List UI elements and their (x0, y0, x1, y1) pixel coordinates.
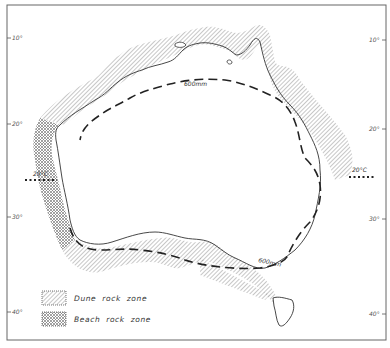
isohyet-600mm (70, 79, 321, 268)
dune-rock-zone (40, 25, 352, 305)
svg-text:20°: 20° (369, 125, 380, 132)
svg-text:10°: 10° (12, 34, 23, 41)
isotherm-label-west: 20°C (33, 170, 49, 177)
legend-label-beach: Beach rock zone (74, 315, 151, 324)
latitude-scale-left: 10° 20° 30° 40° (7, 34, 23, 315)
legend-swatch-dune (42, 291, 66, 305)
melville-island (175, 42, 186, 47)
legend: Dune rock zone Beach rock zone (42, 291, 151, 326)
map-frame (7, 5, 386, 340)
beach-rock-zone (33, 118, 75, 250)
tasmania (273, 297, 294, 326)
isohyet-label-north: 600mm (184, 80, 207, 87)
groote-island (227, 60, 232, 64)
australia-rock-zone-map: 20°C 20°C 600mm 600mm 10° 20° 30° 40° 10… (0, 0, 390, 348)
svg-text:20°: 20° (12, 120, 23, 127)
legend-swatch-beach (42, 312, 66, 326)
svg-text:10°: 10° (369, 36, 380, 43)
isotherm-label-east: 20°C (352, 166, 368, 173)
svg-text:30°: 30° (369, 215, 380, 222)
svg-text:40°: 40° (369, 310, 380, 317)
svg-text:30°: 30° (12, 213, 23, 220)
legend-label-dune: Dune rock zone (74, 294, 147, 303)
svg-text:40°: 40° (12, 308, 23, 315)
